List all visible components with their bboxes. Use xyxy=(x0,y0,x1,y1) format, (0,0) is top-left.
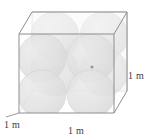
center-dot-marker xyxy=(90,65,93,68)
cube-glass-faces xyxy=(19,12,127,113)
label-width: 1 m xyxy=(68,126,84,136)
depth-guide-line xyxy=(6,113,19,117)
dimension-guides xyxy=(6,113,19,117)
label-height: 1 m xyxy=(128,71,144,81)
label-depth: 1 m xyxy=(4,120,20,130)
